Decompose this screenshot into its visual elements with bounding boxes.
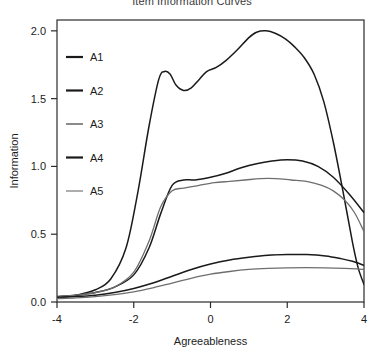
y-tick-label: 0.0 bbox=[31, 296, 46, 308]
legend-label-a5: A5 bbox=[90, 185, 103, 197]
series-group bbox=[57, 31, 364, 299]
legend-item-a4[interactable]: A4 bbox=[66, 152, 103, 164]
y-tick-label: 0.5 bbox=[31, 228, 46, 240]
y-axis-label: Information bbox=[8, 133, 20, 188]
legend-item-a2[interactable]: A2 bbox=[66, 85, 103, 97]
y-tick-label: 2.0 bbox=[31, 25, 46, 37]
series-line-a1 bbox=[57, 160, 364, 297]
legend-label-a4: A4 bbox=[90, 152, 103, 164]
series-line-a2 bbox=[57, 31, 364, 298]
y-tick-label: 1.0 bbox=[31, 160, 46, 172]
legend-label-a1: A1 bbox=[90, 51, 103, 63]
x-tick-label: 2 bbox=[284, 313, 290, 325]
plot-canvas: -4-2024Agreeableness0.00.51.01.52.0Infor… bbox=[0, 0, 384, 364]
y-tick-label: 1.5 bbox=[31, 93, 46, 105]
legend-item-a3[interactable]: A3 bbox=[66, 118, 103, 130]
x-tick-label: -4 bbox=[52, 313, 62, 325]
x-axis-label: Agreeableness bbox=[174, 335, 248, 347]
legend-label-a2: A2 bbox=[90, 85, 103, 97]
x-tick-label: -2 bbox=[129, 313, 139, 325]
x-tick-label: 4 bbox=[361, 313, 367, 325]
item-information-curves-chart: Item Information Curves -4-2024Agreeable… bbox=[0, 0, 384, 364]
legend-item-a1[interactable]: A1 bbox=[66, 51, 103, 63]
legend-item-a5[interactable]: A5 bbox=[66, 185, 103, 197]
x-tick-label: 0 bbox=[207, 313, 213, 325]
legend-label-a3: A3 bbox=[90, 118, 103, 130]
